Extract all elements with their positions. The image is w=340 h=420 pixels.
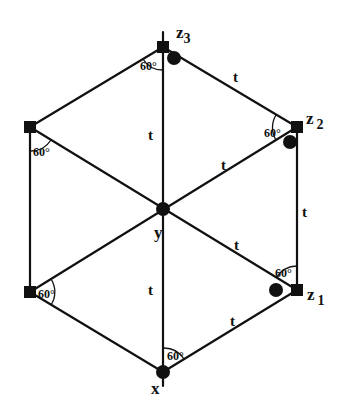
hexagon-diagram: z3 z2 z1 x y t t t t t t t 60° 60° 60° 6… [0, 0, 340, 420]
angle-label-60: 60° [38, 287, 55, 301]
angle-label-60: 60° [167, 349, 184, 363]
token-dot-z2 [283, 135, 297, 149]
edge-bottom-lowerleft [30, 292, 163, 372]
vertex-marker-upperright [291, 121, 303, 133]
label-z2: z2 [306, 109, 324, 132]
angle-label-60: 60° [264, 126, 281, 140]
label-z3: z3 [176, 23, 191, 46]
angle-label-60: 60° [275, 266, 292, 280]
label-z1: z1 [307, 285, 325, 308]
edge-label-t: t [302, 204, 307, 220]
vertex-marker-lowerleft [24, 286, 36, 298]
label-y: y [154, 223, 163, 242]
token-dot-z1 [269, 283, 283, 297]
token-dot-z3 [167, 51, 181, 65]
edge-label-t: t [234, 237, 239, 253]
edge-label-t: t [233, 69, 238, 85]
vertex-dot-bottom [156, 365, 170, 379]
edge-label-t: t [148, 282, 153, 298]
label-x: x [151, 379, 160, 398]
edge-label-t: t [148, 127, 153, 143]
vertex-marker-upperleft [24, 121, 36, 133]
angle-label-60: 60° [33, 145, 50, 159]
edge-label-t: t [230, 313, 235, 329]
edge-top-upperright [163, 47, 297, 127]
vertex-dot-center [156, 202, 170, 216]
vertex-marker-lowerright [291, 284, 303, 296]
vertex-marker-top [157, 41, 169, 53]
edge-label-t: t [221, 157, 226, 173]
angle-label-60: 60° [140, 59, 157, 73]
